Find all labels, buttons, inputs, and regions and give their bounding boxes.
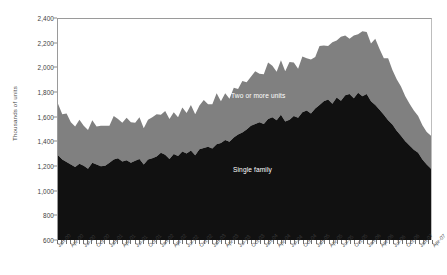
x-tick-mark bbox=[195, 240, 196, 244]
x-tick-mark bbox=[216, 240, 217, 244]
y-axis-title: Thousands of units bbox=[11, 69, 18, 159]
y-tick-label: 1,600 bbox=[38, 113, 55, 120]
x-tick-mark bbox=[113, 240, 114, 244]
y-tick-label: 1,000 bbox=[38, 187, 55, 194]
x-tick-mark bbox=[143, 240, 144, 244]
x-tick-mark bbox=[333, 240, 334, 244]
annotation-two-or-more-units: Two or more units bbox=[231, 92, 285, 99]
x-tick-mark bbox=[156, 240, 157, 244]
x-tick-mark bbox=[415, 240, 416, 244]
x-tick-mark bbox=[208, 240, 209, 244]
x-tick-mark bbox=[402, 240, 403, 244]
x-tick-mark bbox=[423, 240, 424, 244]
y-tick-label: 1,200 bbox=[38, 163, 55, 170]
x-tick-mark bbox=[91, 240, 92, 244]
x-tick-mark bbox=[294, 240, 295, 244]
x-tick-mark bbox=[410, 240, 411, 244]
x-tick-mark bbox=[229, 240, 230, 244]
y-tick-mark bbox=[53, 190, 57, 191]
x-tick-mark bbox=[337, 240, 338, 244]
x-tick-mark bbox=[385, 240, 386, 244]
x-tick-mark bbox=[66, 240, 67, 244]
x-tick-mark bbox=[242, 240, 243, 244]
y-tick-mark bbox=[53, 166, 57, 167]
x-tick-mark bbox=[87, 240, 88, 244]
x-tick-mark bbox=[350, 240, 351, 244]
x-tick-mark bbox=[74, 240, 75, 244]
x-tick-mark bbox=[307, 240, 308, 244]
y-tick-mark bbox=[53, 92, 57, 93]
x-tick-mark bbox=[117, 240, 118, 244]
x-tick-mark bbox=[273, 240, 274, 244]
y-tick-mark bbox=[53, 116, 57, 117]
x-tick-mark bbox=[61, 240, 62, 244]
x-tick-mark bbox=[285, 240, 286, 244]
y-tick-label: 2,000 bbox=[38, 64, 55, 71]
x-tick-mark bbox=[178, 240, 179, 244]
x-tick-mark bbox=[182, 240, 183, 244]
x-tick-label: Apr-07 bbox=[431, 233, 447, 249]
y-tick-label: 2,400 bbox=[38, 15, 55, 22]
x-tick-mark bbox=[221, 240, 222, 244]
y-tick-mark bbox=[53, 215, 57, 216]
x-tick-mark bbox=[79, 240, 80, 244]
x-tick-mark bbox=[169, 240, 170, 244]
x-tick-mark bbox=[359, 240, 360, 244]
y-tick-mark bbox=[53, 42, 57, 43]
x-tick-mark bbox=[281, 240, 282, 244]
x-tick-mark bbox=[346, 240, 347, 244]
x-tick-mark bbox=[268, 240, 269, 244]
y-tick-label: 1,800 bbox=[38, 89, 55, 96]
x-tick-mark bbox=[320, 240, 321, 244]
y-tick-mark bbox=[53, 18, 57, 19]
x-tick-mark bbox=[260, 240, 261, 244]
y-tick-label: 1,400 bbox=[38, 138, 55, 145]
x-tick-mark bbox=[139, 240, 140, 244]
x-tick-mark bbox=[100, 240, 101, 244]
x-tick-mark bbox=[311, 240, 312, 244]
y-tick-label: 2,200 bbox=[38, 39, 55, 46]
x-tick-mark bbox=[389, 240, 390, 244]
x-tick-mark bbox=[372, 240, 373, 244]
x-tick-mark bbox=[165, 240, 166, 244]
x-tick-mark bbox=[234, 240, 235, 244]
x-tick-mark bbox=[324, 240, 325, 244]
x-tick-mark bbox=[298, 240, 299, 244]
x-tick-mark bbox=[126, 240, 127, 244]
x-tick-mark bbox=[191, 240, 192, 244]
x-tick-mark bbox=[398, 240, 399, 244]
x-tick-mark bbox=[130, 240, 131, 244]
x-tick-mark bbox=[376, 240, 377, 244]
annotation-single-family: Single family bbox=[233, 166, 272, 173]
x-tick-mark bbox=[152, 240, 153, 244]
x-tick-mark bbox=[104, 240, 105, 244]
plot-svg bbox=[58, 19, 431, 240]
y-tick-mark bbox=[53, 67, 57, 68]
plot-area bbox=[57, 18, 432, 240]
x-tick-mark bbox=[204, 240, 205, 244]
y-tick-mark bbox=[53, 141, 57, 142]
x-tick-mark bbox=[247, 240, 248, 244]
x-tick-mark bbox=[363, 240, 364, 244]
x-tick-mark bbox=[428, 240, 429, 244]
x-tick-mark bbox=[255, 240, 256, 244]
